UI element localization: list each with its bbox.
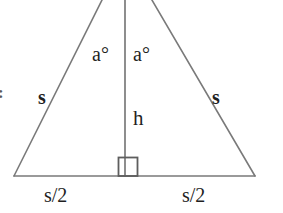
geometry-diagram: a° a° s s h s/2 s/2 : [0, 0, 283, 213]
angle-label-left: a° [92, 44, 109, 64]
base-label-left: s/2 [44, 185, 67, 205]
triangle-right-side-line [125, 0, 255, 176]
angle-label-right: a° [133, 44, 150, 64]
right-angle-marker [119, 158, 138, 177]
margin-colon-mark: : [0, 84, 3, 101]
side-label-left: s [38, 87, 46, 107]
side-label-right: s [212, 87, 220, 107]
height-label: h [133, 108, 144, 129]
base-label-right: s/2 [182, 185, 205, 205]
triangle-left-side-line [14, 0, 125, 176]
